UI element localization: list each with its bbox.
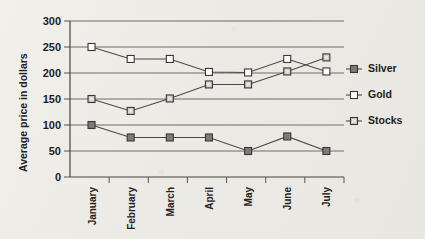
data-point-gold [323,68,330,75]
data-point-silver [127,134,134,141]
data-point-stocks-inner [168,97,172,101]
legend-label-stocks: Stocks [368,114,403,126]
data-point-stocks-inner [246,83,250,87]
chart-legend: SilverGoldStocks [346,62,403,126]
data-point-silver [284,133,291,140]
data-point-stocks-inner [90,97,94,101]
x-tick-label: May [243,187,254,207]
data-point-gold [205,68,212,75]
data-point-gold [127,55,134,62]
legend-label-silver: Silver [368,62,397,74]
x-tick-label: April [204,187,215,210]
x-axis-ticks: JanuaryFebruaryMarchAprilMayJuneJuly [87,177,344,230]
y-tick-label: 50 [49,145,61,157]
legend-marker-stocks-inner [352,119,356,123]
data-point-gold [166,55,173,62]
line-chart: Average price in dollars 050100150200250… [0,0,425,239]
legend-marker-gold [351,92,358,99]
data-point-stocks-inner [207,83,211,87]
data-point-silver [88,122,95,129]
y-axis-ticks: 050100150200250300 [43,15,70,183]
y-axis-title-text: Average price in dollars [17,53,29,172]
chart-svg: Average price in dollars 050100150200250… [0,0,425,239]
data-point-gold [245,69,252,76]
y-tick-label: 200 [43,67,61,79]
legend-label-gold: Gold [368,88,392,100]
data-point-silver [205,134,212,141]
data-point-gold [284,55,291,62]
y-tick-label: 250 [43,41,61,53]
x-tick-label: February [126,187,137,230]
y-tick-label: 0 [55,171,61,183]
data-point-gold [88,44,95,51]
data-point-silver [166,134,173,141]
data-point-stocks-inner [285,70,289,74]
data-point-stocks-inner [129,109,133,113]
y-tick-label: 100 [43,119,61,131]
x-tick-label: June [282,187,293,211]
x-tick-label: January [87,187,98,226]
x-tick-label: March [165,187,176,216]
legend-marker-silver [351,66,358,73]
y-tick-label: 150 [43,93,61,105]
y-axis-title: Average price in dollars [17,53,29,172]
data-point-stocks-inner [324,56,328,60]
x-tick-label: July [321,187,332,207]
y-tick-label: 300 [43,15,61,27]
data-point-silver [245,148,252,155]
data-point-silver [323,148,330,155]
